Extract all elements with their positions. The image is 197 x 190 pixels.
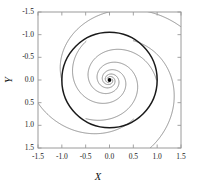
equilibrium-point [108,78,112,82]
plot-canvas [0,0,197,190]
y-tick-label: -1.0 [22,31,34,39]
y-tick-label: 1.0 [25,122,34,130]
x-tick-label: 0.0 [105,153,114,161]
x-tick-label: -1.5 [32,153,44,161]
phase-portrait-figure: X Y -1.5-1.0-0.50.00.51.01.5 1.51.00.50.… [0,0,197,190]
y-tick-label: 1.5 [25,144,34,152]
y-axis-label: Y [4,77,15,83]
x-tick-label: -1.0 [56,153,68,161]
y-tick-label: -1.5 [22,8,34,16]
x-tick-label: -0.5 [80,153,92,161]
y-tick-label: -0.5 [22,54,34,62]
trajectory-group [0,0,197,190]
y-tick-label: 0.5 [25,99,34,107]
x-tick-label: 1.0 [152,153,161,161]
x-axis-label: X [95,172,101,183]
y-tick-label: 0.0 [25,76,34,84]
x-tick-label: 0.5 [129,153,138,161]
x-tick-label: 1.5 [176,153,185,161]
